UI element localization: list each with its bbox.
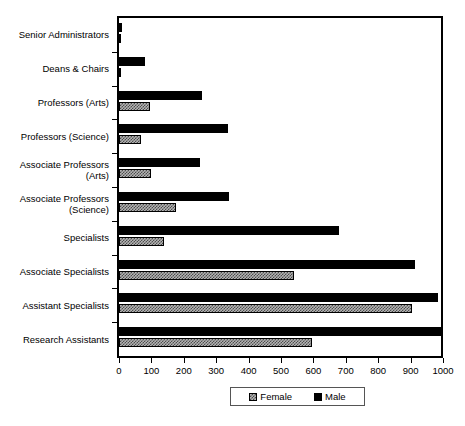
bar-row	[119, 288, 443, 322]
category-label: Associate Professors (Arts)	[0, 153, 113, 187]
bar-female	[119, 237, 164, 246]
y-axis-tick	[112, 52, 117, 53]
bar-row	[119, 322, 443, 356]
x-axis-tick	[119, 358, 120, 363]
bar-female	[119, 102, 150, 111]
bar-female	[119, 203, 176, 212]
bar-female	[119, 304, 412, 313]
bar-male	[119, 226, 339, 235]
bar-male	[119, 260, 415, 269]
bar-female	[119, 135, 141, 144]
y-axis-tick	[112, 187, 117, 188]
bar-row	[119, 119, 443, 153]
category-label: Deans & Chairs	[0, 52, 113, 86]
bar-female	[119, 338, 312, 347]
category-label: Senior Administrators	[0, 18, 113, 52]
x-axis-tick	[184, 358, 185, 363]
legend-item: Female	[249, 391, 292, 402]
legend-label: Female	[260, 391, 292, 402]
x-axis-tick	[346, 358, 347, 363]
category-label: Professors (Arts)	[0, 86, 113, 120]
x-axis-tick	[443, 358, 444, 363]
bar-row	[119, 86, 443, 120]
bar-rows	[119, 18, 443, 356]
bar-row	[119, 187, 443, 221]
y-axis-tick	[112, 288, 117, 289]
category-label: Associate Specialists	[0, 255, 113, 289]
category-label: Specialists	[0, 221, 113, 255]
y-axis-tick	[112, 221, 117, 222]
legend-swatch-female	[249, 393, 257, 401]
category-label: Research Assistants	[0, 322, 113, 356]
bar-male	[119, 57, 145, 66]
bar-male	[119, 158, 200, 167]
bar-male	[119, 192, 229, 201]
x-axis-tick-label: 1000	[423, 365, 463, 376]
category-label: Professors (Science)	[0, 119, 113, 153]
bar-female	[119, 68, 121, 77]
bar-row	[119, 255, 443, 289]
x-axis-tick	[411, 358, 412, 363]
category-label: Assistant Specialists	[0, 288, 113, 322]
y-axis-tick	[112, 119, 117, 120]
bar-male	[119, 124, 228, 133]
category-axis-labels: Senior AdministratorsDeans & ChairsProfe…	[0, 18, 113, 356]
bar-row	[119, 18, 443, 52]
x-axis-tick	[249, 358, 250, 363]
x-axis-tick	[313, 358, 314, 363]
bar-chart: Senior AdministratorsDeans & ChairsProfe…	[0, 0, 465, 426]
legend-label: Male	[325, 391, 346, 402]
chart-legend: FemaleMale	[230, 387, 365, 406]
bar-row	[119, 52, 443, 86]
bar-row	[119, 153, 443, 187]
bar-male	[119, 91, 202, 100]
y-axis-tick	[112, 153, 117, 154]
x-axis-tick	[281, 358, 282, 363]
x-axis-tick	[378, 358, 379, 363]
bar-female	[119, 271, 294, 280]
bar-male	[119, 23, 122, 32]
y-axis-tick	[112, 86, 117, 87]
legend-swatch-male	[314, 393, 322, 401]
bar-male	[119, 293, 438, 302]
bar-male	[119, 327, 443, 336]
x-axis-tick	[151, 358, 152, 363]
legend-item: Male	[314, 391, 346, 402]
bar-row	[119, 221, 443, 255]
y-axis-tick	[112, 255, 117, 256]
bar-female	[119, 169, 151, 178]
category-label: Associate Professors (Science)	[0, 187, 113, 221]
x-axis-tick	[216, 358, 217, 363]
y-axis-tick	[112, 322, 117, 323]
bar-female	[119, 34, 121, 43]
